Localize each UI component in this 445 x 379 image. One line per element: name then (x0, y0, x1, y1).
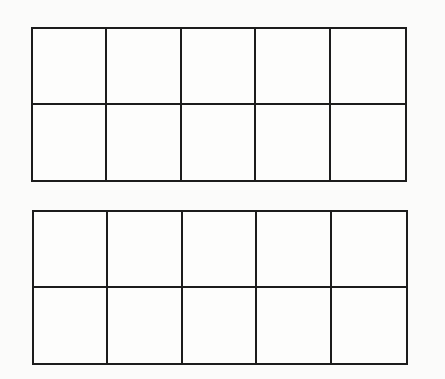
grid-cell (332, 288, 406, 364)
grid-cell (183, 288, 257, 364)
grid-cell (256, 105, 330, 181)
grid-cell (33, 29, 107, 105)
grid-cell (34, 212, 108, 288)
grid-cell (256, 29, 330, 105)
grid-cell (257, 212, 331, 288)
bottom-ten-frame (32, 210, 408, 365)
grid-cell (331, 105, 405, 181)
grid-cell (107, 105, 181, 181)
grid-cell (182, 29, 256, 105)
grid-cell (108, 288, 182, 364)
grid-cell (34, 288, 108, 364)
grid-cell (107, 29, 181, 105)
grid-cell (331, 29, 405, 105)
grid-cell (183, 212, 257, 288)
grid-cell (257, 288, 331, 364)
grid-cell (108, 212, 182, 288)
grid-cell (182, 105, 256, 181)
grid-cell (332, 212, 406, 288)
top-ten-frame (31, 27, 407, 182)
grid-cell (33, 105, 107, 181)
